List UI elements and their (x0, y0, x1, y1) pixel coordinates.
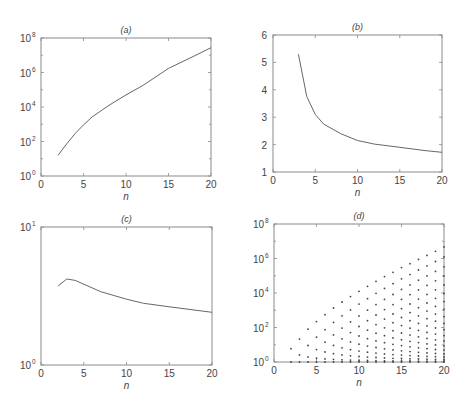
data-point (426, 294, 428, 296)
data-point (350, 341, 352, 343)
data-point (375, 280, 377, 282)
plot-frame (274, 224, 444, 362)
data-point (443, 335, 445, 337)
x-tick-label: 0 (270, 175, 276, 186)
y-tick-label: 5 (261, 57, 267, 68)
x-axis-label: n (356, 377, 362, 388)
panel-title: (c) (121, 214, 132, 224)
data-point (350, 309, 352, 311)
data-point (443, 308, 445, 310)
data-point (375, 292, 377, 294)
svg-text:2: 2 (32, 135, 36, 142)
data-point (350, 359, 352, 361)
data-point (409, 274, 411, 276)
data-point (299, 338, 301, 340)
data-point (435, 339, 437, 341)
data-point (418, 269, 420, 271)
data-point (324, 329, 326, 331)
data-point (418, 289, 420, 291)
data-point (307, 328, 309, 330)
data-point (409, 263, 411, 265)
data-point (307, 356, 309, 358)
data-point (426, 361, 428, 363)
data-point (426, 285, 428, 287)
data-point (392, 322, 394, 324)
data-point (341, 347, 343, 349)
data-point (418, 347, 420, 349)
data-point (443, 356, 445, 358)
svg-text:4: 4 (32, 100, 36, 107)
data-point (418, 330, 420, 332)
y-tick-label: 4 (261, 85, 267, 96)
data-point (333, 353, 335, 355)
data-point (418, 307, 420, 309)
data-point (384, 276, 386, 278)
data-point (290, 348, 292, 350)
data-point (443, 353, 445, 355)
data-point (426, 310, 428, 312)
data-point (409, 294, 411, 296)
data-point (392, 337, 394, 339)
y-tick-label: 10 (253, 219, 265, 230)
data-point (384, 342, 386, 344)
x-tick-label: 20 (438, 365, 450, 376)
data-point (333, 334, 335, 336)
data-point (333, 322, 335, 324)
data-point (435, 289, 437, 291)
data-point (409, 284, 411, 286)
data-point (358, 356, 360, 358)
data-point (409, 346, 411, 348)
svg-text:0: 0 (265, 355, 269, 362)
data-point (443, 301, 445, 303)
data-point (418, 298, 420, 300)
data-point (392, 304, 394, 306)
data-point (375, 361, 377, 363)
y-tick-label: 10 (20, 222, 32, 233)
data-point (392, 357, 394, 359)
data-point (435, 356, 437, 358)
data-point (435, 333, 437, 335)
svg-text:6: 6 (32, 66, 36, 73)
data-point (409, 340, 411, 342)
data-point (341, 359, 343, 361)
data-point (435, 297, 437, 299)
data-point (375, 352, 377, 354)
data-point (290, 361, 292, 363)
panel-a: (a)05101520n100102104106108 (20, 25, 217, 202)
data-point (409, 361, 411, 363)
svg-text:1: 1 (32, 220, 36, 227)
data-point (299, 354, 301, 356)
data-point (358, 350, 360, 352)
y-tick-label: 10 (253, 357, 265, 368)
data-curve (58, 279, 212, 312)
data-point (375, 340, 377, 342)
data-point (443, 340, 445, 342)
data-point (443, 256, 445, 258)
data-point (409, 303, 411, 305)
data-point (375, 304, 377, 306)
data-point (375, 314, 377, 316)
data-point (384, 318, 386, 320)
data-point (384, 335, 386, 337)
y-tick-label: 10 (20, 360, 32, 371)
data-point (341, 361, 343, 363)
svg-text:6: 6 (265, 252, 269, 259)
x-tick-label: 15 (164, 368, 176, 379)
y-tick-label: 10 (20, 137, 32, 148)
data-point (426, 255, 428, 257)
data-point (443, 284, 445, 286)
data-point (443, 349, 445, 351)
data-point (375, 357, 377, 359)
y-tick-label: 6 (261, 30, 267, 41)
data-point (316, 357, 318, 359)
data-point (316, 336, 318, 338)
data-point (443, 323, 445, 325)
x-tick-label: 10 (352, 175, 364, 186)
data-point (384, 288, 386, 290)
x-tick-label: 10 (121, 368, 133, 379)
data-point (418, 336, 420, 338)
data-point (324, 341, 326, 343)
x-tick-label: 10 (353, 365, 365, 376)
data-point (358, 315, 360, 317)
y-tick-label: 10 (20, 68, 32, 79)
